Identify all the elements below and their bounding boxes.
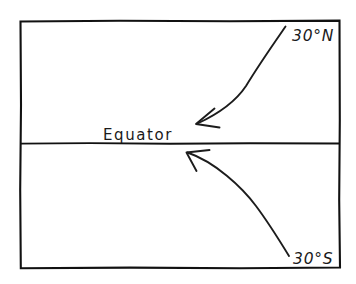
equator-diagram: 30°N Equator 30°S xyxy=(0,0,356,284)
equator-line xyxy=(21,143,341,144)
label-30-north: 30°N xyxy=(292,27,334,45)
arrow-from-30n-curve xyxy=(198,27,286,124)
arrow-from-30s-curve xyxy=(188,153,290,257)
label-equator: Equator xyxy=(103,126,173,144)
label-30-south: 30°S xyxy=(293,250,334,268)
diagram-canvas: 30°N Equator 30°S xyxy=(0,0,356,284)
